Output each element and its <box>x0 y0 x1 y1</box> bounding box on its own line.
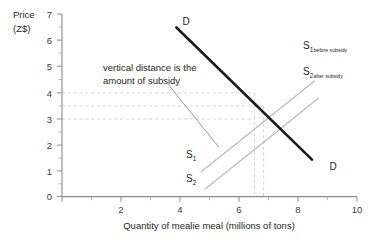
x-tick-label-8: 8 <box>295 204 300 215</box>
annotation-line-1: vertical distance is the <box>103 62 196 73</box>
supply1-label-left-subscript: 1 <box>193 155 197 162</box>
y-tick-label-2: 2 <box>47 140 52 151</box>
supply-curves-group <box>201 81 318 189</box>
supply1-label-right: S 1 before subsidy <box>303 40 348 53</box>
supply-curve-s1 <box>201 81 314 172</box>
x-tick-label-4: 4 <box>177 204 182 215</box>
annotation-line-2: amount of subsidy <box>103 75 180 86</box>
supply1-label-right-note: before subsidy <box>313 47 347 53</box>
curve-labels-group: D D S 1 S 2 S 1 before subsidy S 2 after… <box>182 16 347 186</box>
x-tick-label-2: 2 <box>118 204 123 215</box>
supply2-label-right: S 2 after subsidy <box>303 66 343 79</box>
y-axis-title-line1: Price <box>13 9 35 20</box>
supply2-label-right-note: after subsidy <box>313 73 343 79</box>
reference-lines-group <box>62 93 264 197</box>
y-tick-label-5: 5 <box>47 61 52 72</box>
x-tick-label-10: 10 <box>352 204 363 215</box>
demand-label-top: D <box>182 16 189 27</box>
annotation-leader-line <box>168 84 219 147</box>
x-axis-tick-labels: 2 4 6 8 10 <box>118 204 362 215</box>
chart-svg: 7 6 5 4 3 2 1 0 2 4 6 8 10 Price (Z$) Qu… <box>0 0 373 243</box>
y-tick-label-0: 0 <box>47 191 52 202</box>
demand-curve-d <box>176 28 312 160</box>
y-tick-label-1: 1 <box>47 166 52 177</box>
supply1-label-left: S 1 <box>186 149 197 162</box>
supply2-label-left-subscript: 2 <box>193 179 197 186</box>
demand-label-bottom: D <box>329 161 336 172</box>
supply2-label-left: S 2 <box>186 173 197 186</box>
supply-demand-subsidy-chart: 7 6 5 4 3 2 1 0 2 4 6 8 10 Price (Z$) Qu… <box>0 0 373 243</box>
axes-group <box>57 14 357 202</box>
subsidy-annotation: vertical distance is the amount of subsi… <box>103 62 196 86</box>
x-axis-title: Quantity of mealie meal (millions of ton… <box>123 220 295 231</box>
x-tick-label-6: 6 <box>236 204 241 215</box>
y-tick-label-3: 3 <box>47 114 52 125</box>
y-axis-tick-labels: 7 6 5 4 3 2 1 0 <box>47 9 52 203</box>
y-axis-title-line2: (Z$) <box>13 23 30 34</box>
y-tick-label-6: 6 <box>47 35 52 46</box>
y-tick-label-4: 4 <box>47 88 52 99</box>
y-axis-major-ticks <box>57 14 62 197</box>
demand-curve-group <box>176 28 312 160</box>
y-tick-label-7: 7 <box>47 9 52 20</box>
axis-titles-group: Price (Z$) Quantity of mealie meal (mill… <box>13 9 295 231</box>
